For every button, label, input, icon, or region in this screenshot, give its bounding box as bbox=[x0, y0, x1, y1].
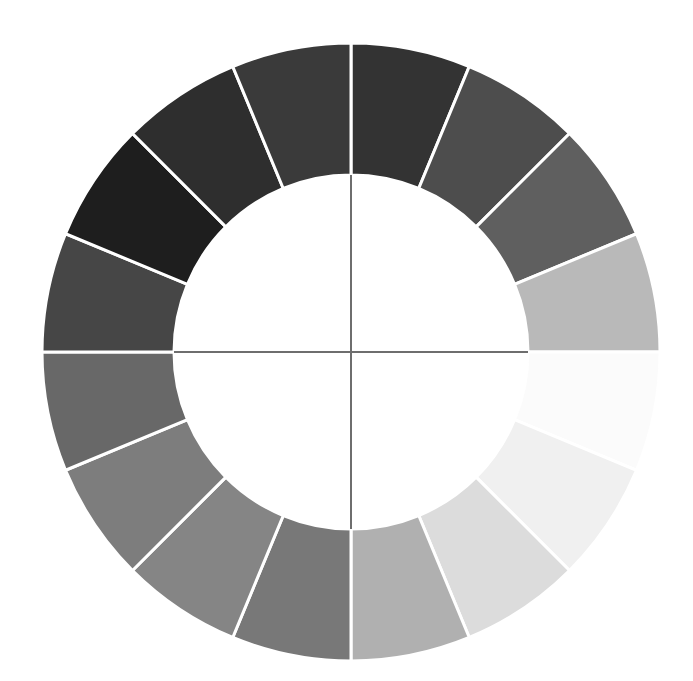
value-wheel-figure bbox=[0, 0, 693, 681]
value-wheel-canvas bbox=[0, 0, 693, 681]
